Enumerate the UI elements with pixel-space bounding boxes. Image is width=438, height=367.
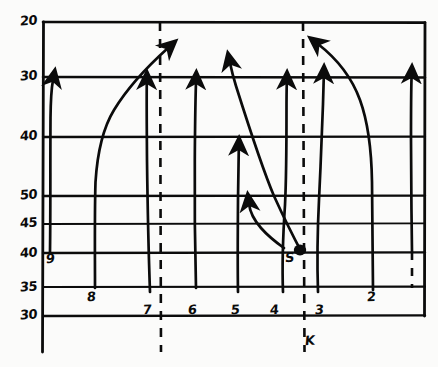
curve-label-6: 6 (187, 302, 197, 317)
y-tick-label-35: 35 (20, 279, 38, 295)
marker-label-k: K (304, 333, 315, 349)
y-tick-label-40-lower: 40 (20, 245, 38, 261)
y-tick-label-50: 50 (20, 187, 38, 203)
curve-label-9: 9 (45, 251, 55, 266)
curve-label-7: 7 (142, 302, 152, 317)
dashed-line-left (160, 22, 161, 352)
y-tick-label-40-upper: 40 (20, 128, 38, 144)
plot-canvas (0, 0, 438, 367)
curve-label-8: 8 (86, 289, 96, 304)
marked-point-s (294, 245, 306, 256)
curve-label-5: 5 (230, 302, 240, 317)
hand-drawn-chart-figure: 20 30 40 50 45 40 35 30 9 8 7 6 5 4 3 2 … (0, 0, 438, 367)
curve-9 (50, 80, 53, 252)
curve-1 (411, 76, 412, 252)
curve-hook (249, 204, 284, 248)
curve-5 (238, 148, 239, 292)
gridline-40b (43, 252, 425, 253)
y-tick-label-20-top: 20 (20, 13, 38, 29)
gridline-top-20 (43, 22, 425, 23)
y-axis-line (43, 22, 44, 352)
dashed-line-k (303, 22, 305, 352)
curve-3 (317, 76, 323, 292)
gridline-45 (43, 223, 425, 224)
curve-label-3: 3 (314, 302, 324, 317)
grid-lines (43, 22, 425, 316)
right-border-line (425, 23, 426, 316)
s-point-dot (294, 245, 306, 256)
point-label-s: S (284, 250, 294, 266)
curve-label-2: 2 (366, 289, 376, 304)
curve-label-4: 4 (269, 302, 279, 317)
curve-7 (147, 82, 150, 292)
y-tick-label-30-upper: 30 (20, 68, 38, 84)
curves (50, 44, 412, 292)
y-tick-label-45: 45 (20, 215, 38, 231)
y-tick-label-30-lower: 30 (20, 307, 38, 323)
curve-6 (195, 82, 196, 288)
